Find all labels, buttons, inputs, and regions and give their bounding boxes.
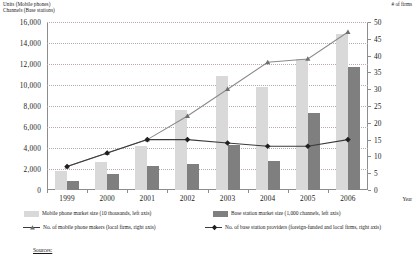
right-tickmark [368,89,371,90]
x-tickmark [47,190,48,193]
right-tick-label: 45 [374,34,382,43]
x-tickmark [87,190,88,193]
right-tick-label: 20 [374,118,382,127]
marker-diamond [185,137,191,143]
right-tickmark [368,22,371,23]
legend-row-bars: Mobile phone market size (10 thousands, … [0,210,414,220]
legend-item-base-market[interactable]: Base station market size (1,000 channels… [213,210,340,217]
x-tick-label: 2004 [260,194,275,203]
legend-label-base-providers: No. of base station providers (foreign-f… [225,224,381,231]
left-tick-label: 6,000 [24,123,41,132]
left-tick-label: 14,000 [20,39,41,48]
right-tick-label: 0 [374,186,378,195]
marker-triangle [345,29,350,34]
right-tickmark [368,140,371,141]
x-tickmark [208,190,209,193]
line-series-group [47,22,368,190]
right-tickmark [368,156,371,157]
x-axis-title: Year [402,196,412,202]
right-tickmark [368,173,371,174]
left-tick-label: 12,000 [20,60,41,69]
marker-diamond [345,137,351,143]
right-tick-label: 50 [374,18,382,27]
right-tick-label: 40 [374,51,382,60]
x-tick-label: 2001 [140,194,155,203]
x-tick-label: 2000 [99,194,114,203]
legend-row-lines: No. of mobile phone makers (local firms,… [0,220,414,230]
chart-figure: Units (Mobile phones) Channels (Base sta… [0,0,414,259]
left-tick-label: 4,000 [24,144,41,153]
x-tick-label: 2002 [180,194,195,203]
right-tickmark [368,190,371,191]
x-tickmark [167,190,168,193]
marker-triangle [225,87,230,92]
right-axis-title: # of firms [392,1,412,7]
x-tickmark [127,190,128,193]
right-tick-label: 10 [374,152,382,161]
left-tick-label: 2,000 [24,165,41,174]
marker-diamond [64,164,70,170]
sources-label: Sources: [33,247,52,253]
light-swatch-icon [24,211,39,217]
legend-label-mobile-market: Mobile phone market size (10 thousands, … [42,210,151,217]
left-tick-label: 16,000 [20,18,41,27]
left-axis-title-line2: Channels (Base stations) [3,7,55,13]
diamond-line-icon [205,224,222,231]
legend: Mobile phone market size (10 thousands, … [0,210,414,230]
x-tickmark [248,190,249,193]
left-tick-label: 10,000 [20,81,41,90]
x-tickmark [288,190,289,193]
left-tick-label: 8,000 [24,102,41,111]
dark-swatch-icon [213,211,228,217]
triangle-line-icon [23,224,40,231]
right-tickmark [368,56,371,57]
x-tick-label: 2006 [340,194,355,203]
right-tick-label: 5 [374,169,378,178]
marker-diamond [225,140,231,146]
left-tick-label: 0 [37,186,41,195]
left-axis-title: Units (Mobile phones) Channels (Base sta… [3,1,55,13]
marker-diamond [305,144,311,150]
legend-label-mobile-makers: No. of mobile phone makers (local firms,… [43,224,156,231]
right-tick-label: 25 [374,102,382,111]
right-tickmark [368,123,371,124]
right-tickmark [368,106,371,107]
x-tickmark [328,190,329,193]
x-tick-label: 1999 [59,194,74,203]
plot-area [47,22,368,190]
legend-item-base-providers[interactable]: No. of base station providers (foreign-f… [205,224,381,231]
legend-label-base-market: Base station market size (1,000 channels… [231,210,340,217]
marker-diamond [104,150,110,156]
x-tick-label: 2005 [300,194,315,203]
right-tick-label: 35 [374,68,382,77]
marker-diamond [265,144,271,150]
right-tick-label: 30 [374,85,382,94]
legend-item-mobile-market[interactable]: Mobile phone market size (10 thousands, … [24,210,151,217]
marker-triangle [185,113,190,118]
right-tick-label: 15 [374,135,382,144]
legend-item-mobile-makers[interactable]: No. of mobile phone makers (local firms,… [23,224,156,231]
right-tickmark [368,39,371,40]
marker-diamond [145,137,151,143]
right-tickmark [368,72,371,73]
x-tick-label: 2003 [220,194,235,203]
